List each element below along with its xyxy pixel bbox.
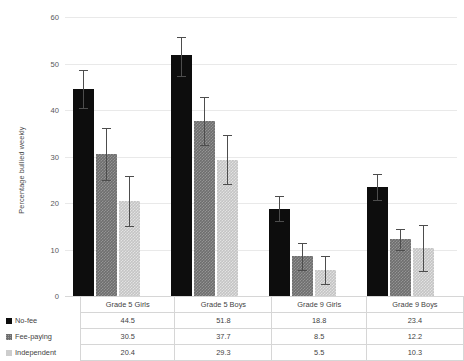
table-cell: 29.3 [175,345,272,361]
table-cell: 37.7 [175,329,272,345]
error-cap-lower [223,184,232,185]
legend-label: Fee-paying [15,332,52,341]
table-column-header: Grade 9 Girls [272,297,366,313]
legend-label: Independent [15,348,56,357]
table-cell: 51.8 [175,313,272,329]
error-bar [423,225,424,271]
error-bar [302,243,303,271]
legend-label: No-fee [15,316,37,325]
error-cap-upper [102,128,111,129]
table-cell: 44.5 [81,313,175,329]
error-bar [377,174,378,201]
table-cell: 10.3 [366,345,463,361]
table-cell: 8.5 [272,329,366,345]
error-cap-lower [79,108,88,109]
error-bar [106,128,107,181]
table-row: No-fee44.551.818.823.4 [0,313,464,329]
error-cap-upper [373,174,382,175]
table-cell: 12.2 [366,329,463,345]
legend-swatch-icon [6,334,12,340]
error-bar [279,196,280,220]
error-cap-upper [275,196,284,197]
data-table: Grade 5 GirlsGrade 5 BoysGrade 9 GirlsGr… [0,296,464,361]
error-cap-lower [102,180,111,181]
error-cap-upper [396,229,405,230]
table-column-header: Grade 5 Girls [81,297,175,313]
table-header-row: Grade 5 GirlsGrade 5 BoysGrade 9 GirlsGr… [0,297,464,313]
y-tick-label-10: 10 [51,245,59,254]
error-bar [204,97,205,146]
data-table-body: Grade 5 GirlsGrade 5 BoysGrade 9 GirlsGr… [0,297,464,361]
bar [194,121,215,296]
error-cap-lower [298,270,307,271]
y-tick-label-60: 60 [51,13,59,22]
error-cap-upper [223,135,232,136]
bar-group [65,17,163,296]
error-cap-upper [321,256,330,257]
error-cap-lower [275,221,284,222]
error-cap-upper [200,97,209,98]
error-cap-upper [177,37,186,38]
error-cap-lower [177,76,186,77]
bar [73,89,94,296]
bar [171,55,192,296]
table-row: Independent20.429.35.510.3 [0,345,464,361]
error-cap-upper [125,176,134,177]
y-tick-label-30: 30 [51,152,59,161]
table-column-header: Grade 5 Boys [175,297,272,313]
y-tick-label-40: 40 [51,106,59,115]
y-axis-title-label: Percentage bullied weekly [17,105,26,235]
table-cell: 20.4 [81,345,175,361]
error-bar [181,37,182,75]
error-cap-lower [419,271,428,272]
error-bar [227,135,228,184]
y-tick-label-50: 50 [51,59,59,68]
error-cap-upper [79,70,88,71]
plot-area: 0102030405060 [65,17,457,296]
bar-group [359,17,457,296]
legend-item[interactable]: Independent [0,345,81,361]
legend-swatch-icon [6,318,12,324]
table-cell: 5.5 [272,345,366,361]
table-row: Fee-paying30.537.78.512.2 [0,329,464,345]
table-cell: 30.5 [81,329,175,345]
error-cap-lower [373,200,382,201]
error-cap-lower [125,226,134,227]
error-bar [325,256,326,283]
bar-group [163,17,261,296]
error-cap-upper [419,225,428,226]
error-bar [83,70,84,108]
legend-swatch-icon [6,350,12,356]
table-cell: 18.8 [272,313,366,329]
bar-group [261,17,359,296]
error-cap-lower [200,145,209,146]
error-bar [400,229,401,250]
legend-item[interactable]: No-fee [0,313,81,329]
table-corner-cell [0,297,81,313]
legend-item[interactable]: Fee-paying [0,329,81,345]
y-tick-label-20: 20 [51,199,59,208]
error-cap-lower [396,250,405,251]
error-bar [129,176,130,226]
error-cap-upper [298,243,307,244]
bar [269,209,290,296]
bar [367,187,388,296]
table-cell: 23.4 [366,313,463,329]
error-cap-lower [321,284,330,285]
table-column-header: Grade 9 Boys [366,297,463,313]
y-axis-title: Percentage bullied weekly [17,0,26,105]
